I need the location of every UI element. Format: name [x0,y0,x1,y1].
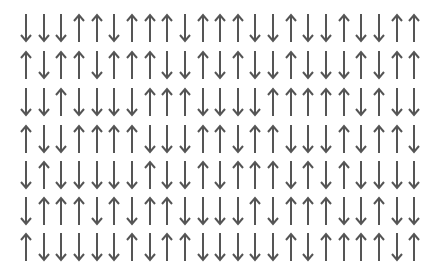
down-arrow-icon [408,87,420,117]
down-arrow-icon [320,124,332,154]
down-arrow-icon [232,124,244,154]
up-arrow-icon [91,13,103,43]
up-arrow-icon [20,50,32,80]
up-arrow-icon [285,232,297,262]
down-arrow-icon [144,124,156,154]
down-arrow-icon [302,50,314,80]
down-arrow-icon [73,87,85,117]
up-arrow-icon [249,196,261,226]
down-arrow-icon [391,232,403,262]
up-arrow-icon [91,124,103,154]
down-arrow-icon [338,50,350,80]
up-arrow-icon [108,196,120,226]
down-arrow-icon [179,13,191,43]
down-arrow-icon [408,124,420,154]
down-arrow-icon [179,124,191,154]
down-arrow-icon [38,13,50,43]
up-arrow-icon [73,124,85,154]
up-arrow-icon [38,160,50,190]
down-arrow-icon [179,196,191,226]
down-arrow-icon [355,196,367,226]
up-arrow-icon [73,196,85,226]
up-arrow-icon [197,124,209,154]
up-arrow-icon [126,124,138,154]
down-arrow-icon [267,13,279,43]
arrow-grid [0,0,443,275]
up-arrow-icon [285,50,297,80]
down-arrow-icon [91,232,103,262]
down-arrow-icon [197,196,209,226]
down-arrow-icon [161,50,173,80]
down-arrow-icon [161,160,173,190]
down-arrow-icon [267,50,279,80]
up-arrow-icon [197,13,209,43]
up-arrow-icon [373,232,385,262]
up-arrow-icon [338,124,350,154]
down-arrow-icon [249,13,261,43]
down-arrow-icon [91,196,103,226]
down-arrow-icon [214,196,226,226]
down-arrow-icon [373,50,385,80]
up-arrow-icon [267,87,279,117]
down-arrow-icon [355,160,367,190]
down-arrow-icon [126,196,138,226]
up-arrow-icon [302,160,314,190]
down-arrow-icon [391,160,403,190]
down-arrow-icon [214,232,226,262]
down-arrow-icon [355,13,367,43]
down-arrow-icon [20,87,32,117]
down-arrow-icon [73,232,85,262]
up-arrow-icon [161,13,173,43]
up-arrow-icon [108,124,120,154]
down-arrow-icon [126,160,138,190]
up-arrow-icon [161,87,173,117]
up-arrow-icon [20,124,32,154]
down-arrow-icon [302,13,314,43]
up-arrow-icon [108,50,120,80]
down-arrow-icon [38,87,50,117]
up-arrow-icon [355,50,367,80]
down-arrow-icon [285,160,297,190]
down-arrow-icon [285,124,297,154]
down-arrow-icon [391,87,403,117]
down-arrow-icon [373,160,385,190]
up-arrow-icon [232,160,244,190]
up-arrow-icon [73,13,85,43]
down-arrow-icon [408,160,420,190]
down-arrow-icon [55,124,67,154]
down-arrow-icon [38,50,50,80]
down-arrow-icon [408,196,420,226]
up-arrow-icon [391,13,403,43]
up-arrow-icon [338,232,350,262]
down-arrow-icon [20,13,32,43]
down-arrow-icon [55,160,67,190]
up-arrow-icon [144,196,156,226]
down-arrow-icon [320,50,332,80]
up-arrow-icon [338,13,350,43]
down-arrow-icon [249,50,261,80]
down-arrow-icon [91,160,103,190]
up-arrow-icon [373,124,385,154]
up-arrow-icon [144,50,156,80]
up-arrow-icon [338,160,350,190]
down-arrow-icon [232,87,244,117]
up-arrow-icon [161,196,173,226]
up-arrow-icon [179,87,191,117]
down-arrow-icon [373,13,385,43]
down-arrow-icon [232,232,244,262]
down-arrow-icon [214,50,226,80]
down-arrow-icon [302,232,314,262]
up-arrow-icon [373,87,385,117]
down-arrow-icon [214,160,226,190]
up-arrow-icon [197,160,209,190]
up-arrow-icon [302,196,314,226]
up-arrow-icon [144,87,156,117]
down-arrow-icon [355,87,367,117]
down-arrow-icon [197,87,209,117]
down-arrow-icon [338,196,350,226]
down-arrow-icon [38,124,50,154]
up-arrow-icon [391,50,403,80]
up-arrow-icon [285,87,297,117]
down-arrow-icon [144,232,156,262]
up-arrow-icon [55,50,67,80]
